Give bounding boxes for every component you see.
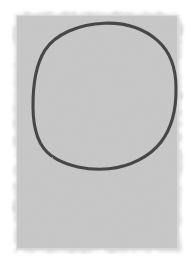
paper-grain-overlay bbox=[16, 15, 179, 250]
sketch-image bbox=[0, 0, 195, 269]
sketch-canvas: Hand-drawn circle on gray paper bbox=[0, 0, 195, 269]
